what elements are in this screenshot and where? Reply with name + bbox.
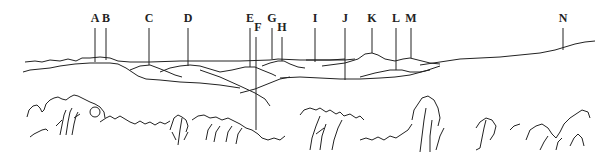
landscape-diagram: A B C D E F G H I J K L M N [0, 0, 612, 166]
ridgelines [23, 41, 595, 106]
small-tree-right [476, 118, 496, 150]
left-hill-line [23, 63, 240, 88]
l-ridge-line [360, 70, 430, 77]
label-c: C [145, 11, 154, 25]
label-i: I [313, 11, 318, 25]
hedge-mid-left [192, 115, 285, 140]
label-h: H [277, 20, 287, 34]
label-k: K [367, 11, 377, 25]
foreground-vegetation [27, 95, 590, 152]
label-e: E [246, 11, 254, 25]
shrub-far-right-2 [540, 134, 584, 150]
label-b: B [102, 11, 110, 25]
labels: A B C D E F G H I J K L M N [91, 11, 568, 34]
label-a: A [91, 11, 100, 25]
label-f: F [254, 20, 261, 34]
label-d: D [184, 11, 193, 25]
shrub-mid-left [206, 124, 242, 144]
label-m: M [405, 11, 416, 25]
far-ridge-line [25, 57, 355, 62]
tree-center [300, 108, 364, 150]
label-g: G [267, 11, 276, 25]
valley-diagonal-line [200, 70, 270, 106]
tree-mid-left [170, 115, 188, 145]
bush-left-1 [27, 95, 105, 118]
tree-center-right [412, 96, 444, 152]
label-j: J [342, 11, 348, 25]
hedge-center [360, 124, 412, 140]
round-shrub [90, 107, 100, 117]
label-l: L [392, 11, 400, 25]
hedge-left [100, 116, 170, 125]
h-ridge-line [262, 61, 305, 68]
i-ridge-line [306, 59, 345, 60]
label-n: N [559, 11, 568, 25]
bush-left-2 [30, 129, 48, 137]
label-leaders [95, 28, 563, 130]
d-ridge-line [160, 65, 276, 76]
right-skyline-line [420, 41, 595, 65]
tree-left-trunk [56, 108, 80, 135]
shrub-far-right [510, 110, 590, 140]
valley-branch-line [240, 77, 290, 93]
